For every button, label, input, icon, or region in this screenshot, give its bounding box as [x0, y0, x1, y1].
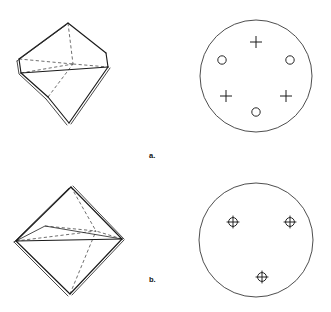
cube-face-top-right — [68, 23, 108, 67]
octahedron-face-lower — [16, 239, 122, 294]
panel-b-projection — [199, 183, 313, 297]
panel-label-a: a. — [149, 151, 155, 160]
projection-circle-b — [199, 183, 313, 297]
symbol-open-circle-lower-pole — [218, 56, 226, 64]
panel-label-b: b. — [149, 275, 156, 284]
panel-a-cube — [17, 23, 110, 125]
panel-a-projection — [200, 20, 312, 132]
crystal-forms-figure: a. — [0, 0, 331, 312]
symbol-open-circle-lower-pole — [286, 56, 294, 64]
figure-root: a. — [0, 0, 331, 312]
symbol-open-circle-lower-pole — [252, 108, 260, 116]
panel-b-octahedron — [14, 186, 124, 296]
